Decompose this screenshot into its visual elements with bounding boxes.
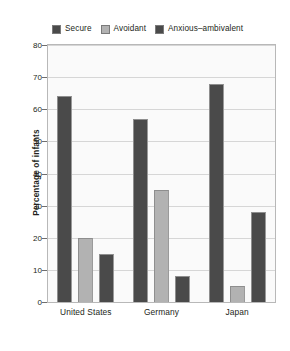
bar (154, 190, 169, 302)
chart-legend: Secure Avoidant Anxious–ambivalent (52, 21, 276, 37)
legend-swatch-anxious-ambivalent (155, 25, 164, 34)
bar (133, 119, 148, 302)
y-axis-tick-label: 0 (12, 298, 42, 307)
bar (209, 84, 224, 302)
y-axis-tick-label: 70 (12, 73, 42, 82)
x-axis-tick-label: Japan (199, 307, 275, 317)
y-axis-tick-label: 10 (12, 265, 42, 274)
plot-area (47, 44, 276, 303)
legend-label-avoidant: Avoidant (114, 24, 147, 34)
legend-item-secure: Secure (52, 24, 92, 34)
x-axis-tick-label: Germany (124, 307, 200, 317)
bars-layer (48, 45, 275, 302)
bar (78, 238, 93, 302)
bar (175, 276, 190, 302)
y-axis-tick-label: 20 (12, 233, 42, 242)
legend-swatch-avoidant (101, 25, 110, 34)
bar-group (124, 45, 200, 302)
legend-item-anxious-ambivalent: Anxious–ambivalent (155, 24, 243, 34)
bar (57, 96, 72, 302)
y-axis-tick-label: 50 (12, 137, 42, 146)
y-axis-tick-label: 80 (12, 41, 42, 50)
bar (251, 212, 266, 302)
x-axis-tick-label: United States (48, 307, 124, 317)
bar (230, 286, 245, 302)
y-axis-tick-label: 30 (12, 201, 42, 210)
legend-swatch-secure (52, 25, 61, 34)
legend-label-anxious-ambivalent: Anxious–ambivalent (168, 24, 243, 34)
legend-label-secure: Secure (65, 24, 92, 34)
y-axis-tick-label: 40 (12, 169, 42, 178)
legend-item-avoidant: Avoidant (101, 24, 147, 34)
y-axis-tick-label: 60 (12, 105, 42, 114)
bar (99, 254, 114, 302)
bar-group (199, 45, 275, 302)
bar-group (48, 45, 124, 302)
attachment-styles-bar-chart: Secure Avoidant Anxious–ambivalent Perce… (0, 0, 290, 351)
